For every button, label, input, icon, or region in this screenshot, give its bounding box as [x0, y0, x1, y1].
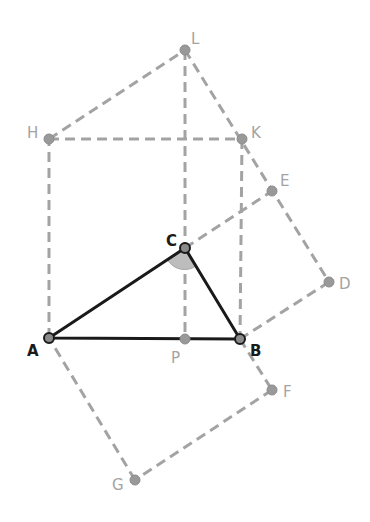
segment-LD	[185, 50, 329, 282]
point-D[interactable]	[324, 277, 334, 287]
label-L: L	[191, 30, 200, 48]
triangle-ABC	[49, 248, 240, 339]
point-H[interactable]	[44, 134, 54, 144]
point-P[interactable]	[180, 334, 190, 344]
label-K: K	[251, 124, 262, 142]
point-K[interactable]	[237, 134, 247, 144]
point-L[interactable]	[180, 45, 190, 55]
segment-KB	[240, 139, 242, 339]
point-A[interactable]	[44, 333, 54, 343]
label-G: G	[112, 476, 124, 494]
point-C[interactable]	[180, 243, 190, 253]
point-B[interactable]	[235, 334, 245, 344]
segment-DB	[240, 282, 329, 339]
geometry-diagram: A B C P H K L E D F G	[0, 0, 370, 522]
label-A: A	[27, 342, 39, 360]
point-G[interactable]	[130, 475, 140, 485]
label-D: D	[339, 275, 351, 293]
segment-FG	[135, 390, 272, 480]
label-P: P	[171, 349, 180, 367]
point-F[interactable]	[267, 385, 277, 395]
segment-HL	[49, 50, 185, 139]
label-C: C	[166, 232, 177, 250]
label-E: E	[280, 172, 289, 190]
label-H: H	[27, 124, 38, 142]
segment-CE	[185, 191, 272, 248]
point-E[interactable]	[267, 186, 277, 196]
triangle-vertices	[44, 243, 245, 344]
segment-GA	[49, 338, 135, 480]
label-B: B	[250, 342, 261, 360]
label-F: F	[283, 383, 292, 401]
